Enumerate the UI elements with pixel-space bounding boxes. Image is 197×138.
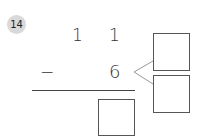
split-box-bottom[interactable] [153, 75, 190, 113]
split-box-top[interactable] [153, 33, 190, 71]
